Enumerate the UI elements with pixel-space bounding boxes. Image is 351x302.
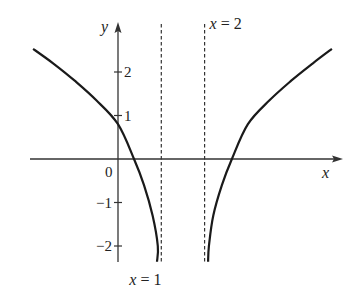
asymptote-label: x = 2 [209, 15, 242, 32]
plot-area: 21−1−20xyx = 1x = 2 [0, 0, 351, 302]
x-axis-label: x [321, 164, 329, 181]
axes [30, 22, 343, 262]
curve-right-branch [208, 49, 332, 262]
y-tick-label: −1 [96, 195, 112, 211]
y-axis-label: y [99, 18, 109, 36]
y-tick-label: 2 [124, 64, 132, 80]
function-graph: 21−1−20xyx = 1x = 2 [0, 0, 351, 302]
asymptotes [161, 24, 204, 262]
y-tick-label: −2 [96, 238, 112, 254]
curve-left-branch [33, 49, 158, 262]
curves [33, 49, 332, 262]
asymptote-label: x = 1 [128, 271, 161, 288]
origin-label: 0 [105, 164, 113, 180]
y-tick-label: 1 [124, 108, 132, 124]
